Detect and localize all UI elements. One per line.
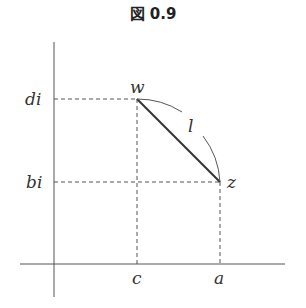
label-c: c xyxy=(132,268,142,288)
arc-segment-lower xyxy=(203,136,220,182)
label-bi: bi xyxy=(26,172,42,192)
label-z: z xyxy=(226,172,237,192)
label-w: w xyxy=(130,77,145,97)
chord-wz xyxy=(137,99,220,182)
label-a: a xyxy=(214,268,224,288)
label-l: l xyxy=(188,116,193,136)
label-di: di xyxy=(25,89,41,109)
diagram: w z l di bi c a xyxy=(0,0,306,308)
